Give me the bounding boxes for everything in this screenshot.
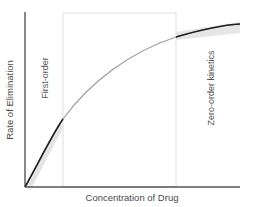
first-order-label: First-order bbox=[40, 57, 50, 99]
mid-region-box bbox=[63, 13, 176, 187]
y-axis-label: Rate of Elimination bbox=[4, 60, 15, 140]
x-axis-label: Concentration of Drug bbox=[86, 192, 179, 203]
zero-order-label: Zero-order kinetics bbox=[206, 50, 216, 126]
first-order-segment bbox=[25, 119, 63, 187]
elimination-kinetics-chart: Rate of Elimination First-order Zero-ord… bbox=[0, 0, 254, 207]
first-order-shade bbox=[26, 124, 64, 187]
